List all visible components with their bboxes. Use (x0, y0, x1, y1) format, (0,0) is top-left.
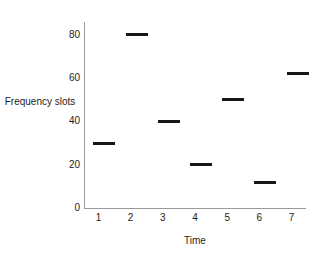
x-axis-tick-label: 2 (121, 212, 141, 223)
x-axis-tick-label: 7 (282, 212, 302, 223)
data-point-marker (287, 72, 309, 75)
y-axis-tick-labels: 020406080 (36, 0, 80, 263)
data-point-marker (254, 181, 276, 184)
y-axis-title: Frequency slots (4, 96, 76, 108)
data-point-marker (93, 142, 115, 145)
data-point-marker (190, 163, 212, 166)
x-axis-tick-label: 3 (153, 212, 173, 223)
data-point-marker (126, 33, 148, 36)
data-point-marker (158, 120, 180, 123)
y-axis-tick-label: 60 (40, 73, 80, 83)
y-axis-tick-label: 0 (40, 203, 80, 213)
x-axis-tick-label: 4 (185, 212, 205, 223)
x-axis-tick-label: 5 (217, 212, 237, 223)
x-axis-tick-label: 6 (249, 212, 269, 223)
data-point-marker (222, 98, 244, 101)
x-axis-line (84, 208, 306, 209)
x-axis-tick-label: 1 (88, 212, 108, 223)
y-axis-tick-label: 20 (40, 160, 80, 170)
chart-container: 020406080 1234567 Frequency slots Time (0, 0, 315, 263)
y-axis-tick-label: 80 (40, 30, 80, 40)
y-axis-tick-label: 40 (40, 116, 80, 126)
x-axis-title: Time (84, 235, 306, 246)
